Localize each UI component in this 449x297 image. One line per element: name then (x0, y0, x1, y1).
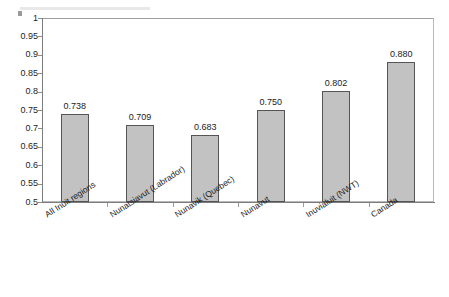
x-axis-tick-mark (369, 203, 370, 207)
x-axis-category-label: All Inuit regions (43, 179, 97, 219)
y-axis-tick-mark (38, 36, 42, 37)
y-axis-tick-mark (38, 73, 42, 74)
y-axis-tick-mark (38, 110, 42, 111)
x-axis-tick-mark (173, 203, 174, 207)
y-axis-tick-mark (38, 202, 42, 203)
y-axis-tick-mark (38, 18, 42, 19)
x-axis-category-label: Nunavut (239, 194, 271, 220)
bar-chart: 10.950.90.850.80.750.70.650.60.550.5 0.7… (0, 0, 449, 297)
x-axis-tick-mark (303, 203, 304, 207)
x-axis-tick-mark (238, 203, 239, 207)
x-axis-category-label: Nunavik (Quebec) (173, 174, 236, 220)
x-axis-category-label: Inuvialuit (NWT) (304, 178, 361, 220)
y-axis-tick-mark (38, 147, 42, 148)
x-axis-category-label: Canada (369, 195, 399, 220)
y-axis-tick-mark (38, 128, 42, 129)
y-axis-tick-mark (38, 55, 42, 56)
y-axis-tick-mark (38, 184, 42, 185)
y-axis-tick-mark (38, 165, 42, 166)
y-axis-tick-mark (38, 92, 42, 93)
x-axis-tick-mark (107, 203, 108, 207)
x-axis-labels: All Inuit regionsNunatsiavut (Labrador)N… (0, 0, 449, 297)
